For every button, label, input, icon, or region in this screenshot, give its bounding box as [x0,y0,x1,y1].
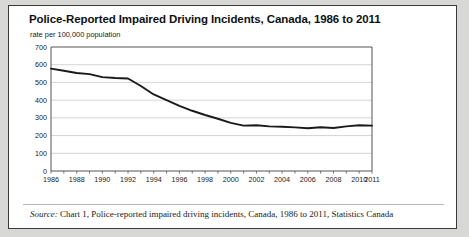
source-label: Source: [30,209,58,219]
svg-text:1988: 1988 [69,175,85,184]
svg-text:100: 100 [35,149,47,158]
svg-text:2000: 2000 [223,175,239,184]
plot-frame [51,47,372,171]
svg-text:1998: 1998 [197,175,213,184]
svg-text:600: 600 [35,60,47,69]
svg-text:1994: 1994 [146,175,162,184]
svg-text:500: 500 [35,78,47,87]
svg-text:1992: 1992 [120,175,136,184]
plot-area: 0100200300400500600700 19861988199019921… [22,44,442,196]
source-note: Source: Chart 1, Police-reported impaire… [30,209,444,219]
source-text: Chart 1, Police-reported impaired drivin… [58,209,394,219]
svg-text:1986: 1986 [43,175,59,184]
svg-text:700: 700 [35,44,47,52]
svg-text:1990: 1990 [94,175,110,184]
y-axis-tick-labels: 0100200300400500600700 [35,44,47,176]
svg-text:2002: 2002 [248,175,264,184]
svg-text:2004: 2004 [274,175,290,184]
gridlines [51,65,372,154]
svg-text:2008: 2008 [325,175,341,184]
svg-text:2011: 2011 [364,175,379,184]
svg-text:2006: 2006 [300,175,316,184]
svg-text:300: 300 [35,113,47,122]
svg-text:1996: 1996 [171,175,187,184]
line-chart: 0100200300400500600700 19861988199019921… [22,44,442,196]
svg-text:200: 200 [35,131,47,140]
chart-subtitle: rate per 100,000 population [30,30,120,39]
source-divider [23,204,444,205]
x-axis-tick-labels: 1986198819901992199419961998200020022004… [43,175,380,184]
figure-panel: Police-Reported Impaired Driving Inciden… [8,5,457,229]
chart-title: Police-Reported Impaired Driving Inciden… [29,13,381,25]
data-series-line [51,69,372,129]
svg-text:400: 400 [35,96,47,105]
